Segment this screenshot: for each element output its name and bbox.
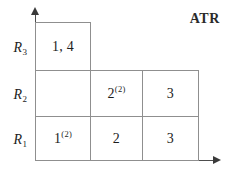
grid-cell-r3-c1-value: 1, 4 [52, 39, 74, 54]
diagram-canvas: ATR R3 R2 R1 1, 4 2(2) 3 1(2) 2 3 [0, 0, 230, 172]
row-label-r2: R2 [8, 88, 32, 102]
vertical-axis-arrow-icon [31, 7, 39, 15]
grid-cell-r1-c1-superscript: (2) [61, 129, 72, 139]
row-label-r1: R1 [8, 133, 32, 147]
atr-label: ATR [190, 11, 220, 27]
grid-cell-r2-c1 [35, 70, 91, 117]
grid-cell-r2-c2: 2(2) [90, 70, 143, 117]
row-label-r1-base: R [13, 132, 22, 147]
horizontal-axis-arrow-icon [213, 156, 221, 164]
grid-cell-r2-c3-value: 3 [167, 86, 174, 101]
grid-cell-r1-c1-text: 1(2) [54, 132, 72, 146]
grid-cell-r3-c1-text: 1, 4 [52, 40, 74, 54]
row-label-r3-sub: 3 [23, 47, 28, 57]
grid-cell-r2-c3: 3 [142, 70, 199, 117]
grid-cell-r3-c1: 1, 4 [35, 22, 91, 71]
row-label-r3: R3 [8, 41, 32, 55]
grid-cell-r2-c3-text: 3 [167, 87, 174, 101]
grid-cell-r2-c2-text: 2(2) [107, 87, 125, 101]
grid-cell-r1-c2: 2 [90, 116, 143, 161]
row-label-r1-sub: 1 [23, 139, 28, 149]
grid-cell-r1-c2-text: 2 [113, 132, 120, 146]
row-label-r2-base: R [13, 87, 22, 102]
grid-cell-r2-c2-value: 2 [107, 86, 114, 101]
grid-cell-r1-c3-text: 3 [167, 132, 174, 146]
row-label-r3-base: R [13, 40, 22, 55]
grid-cell-r1-c3-value: 3 [167, 131, 174, 146]
grid-cell-r2-c2-superscript: (2) [115, 84, 126, 94]
grid-cell-r1-c1: 1(2) [35, 116, 91, 161]
grid-cell-r1-c3: 3 [142, 116, 199, 161]
grid-cell-r1-c2-value: 2 [113, 131, 120, 146]
row-label-r2-sub: 2 [23, 94, 28, 104]
